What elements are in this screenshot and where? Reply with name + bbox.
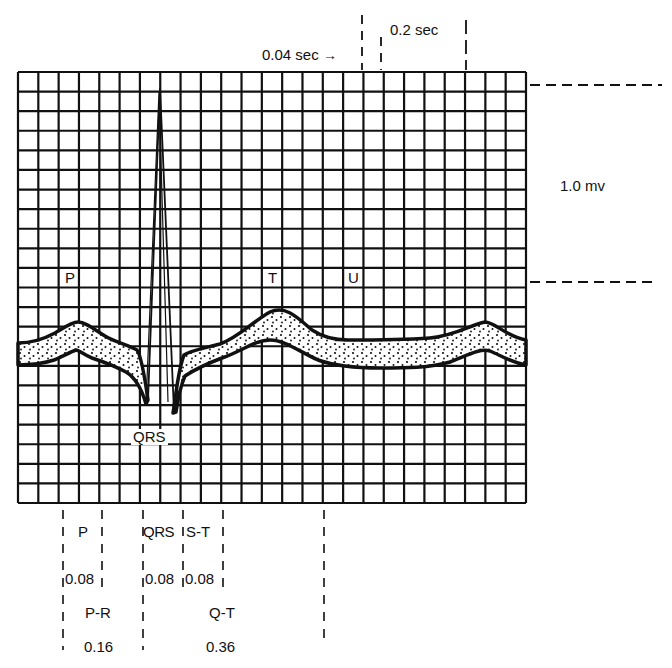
interval-qrs-duration: 0.08 xyxy=(145,571,174,587)
small-box-time-label: 0.04 sec → xyxy=(262,47,337,63)
arrow-right-icon: → xyxy=(323,47,337,63)
interval-pr-duration: 0.16 xyxy=(84,639,113,655)
interval-pr-name: P-R xyxy=(85,605,111,621)
t-wave-label: T xyxy=(267,270,278,286)
p-wave-label: P xyxy=(64,270,76,286)
interval-qt-name: Q-T xyxy=(209,605,235,621)
interval-p-duration: 0.08 xyxy=(65,571,94,587)
u-wave-label: U xyxy=(347,270,360,286)
small-box-time-text: 0.04 sec xyxy=(262,46,319,63)
interval-st-name: S-T xyxy=(186,524,210,540)
interval-p-name: P xyxy=(78,524,88,540)
large-box-time-label: 0.2 sec xyxy=(390,22,438,38)
ecg-diagram xyxy=(0,0,672,668)
ecg-grid xyxy=(18,72,526,503)
interval-st-duration: 0.08 xyxy=(185,571,214,587)
voltage-scale-label: 1.0 mv xyxy=(560,178,605,194)
t-wave-band xyxy=(173,310,526,413)
interval-qrs-name: QRS xyxy=(143,524,174,540)
qrs-complex-label: QRS xyxy=(131,429,168,445)
ecg-trace xyxy=(18,88,526,413)
interval-qt-duration: 0.36 xyxy=(206,639,235,655)
